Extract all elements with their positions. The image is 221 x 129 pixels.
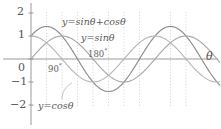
- y-tick-0: 0: [18, 62, 25, 73]
- x-axis-label-theta: θ: [206, 51, 213, 62]
- x-annotation-90deg-value: 90: [48, 64, 59, 74]
- y-tick-2: 2: [17, 6, 24, 17]
- y-tick-minus-1: −1: [11, 76, 27, 87]
- x-annotation-90deg: 90°: [48, 63, 62, 73]
- x-annotation-180deg-value: 180: [88, 49, 104, 59]
- degree-symbol-180: °: [104, 47, 107, 55]
- curve-label-sin: y=sinθ: [81, 33, 115, 43]
- y-tick-1: 1: [18, 29, 25, 40]
- degree-symbol-90: °: [59, 62, 62, 70]
- x-annotation-180deg: 180°: [88, 48, 107, 58]
- curve-label-cos: y=cosθ: [38, 101, 74, 111]
- trig-graph-figure: 2 1 0 −1 −2 θ 90° 180° y=sinθ+cosθ y=sin…: [0, 0, 221, 129]
- y-tick-minus-2: −2: [10, 99, 26, 110]
- curve-label-sin-plus-cos: y=sinθ+cosθ: [62, 17, 126, 27]
